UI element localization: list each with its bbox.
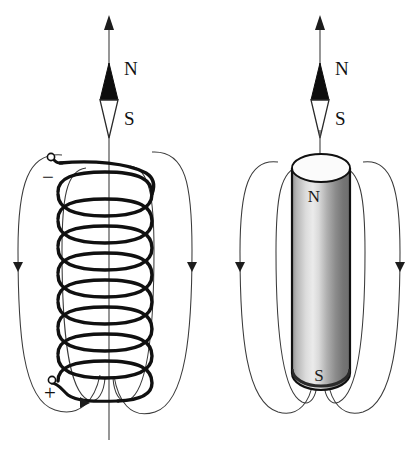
magnet-field-arrow-right	[395, 262, 405, 272]
compass-needle-south-left	[100, 100, 118, 138]
magnet-pole-label-south: S	[314, 366, 323, 385]
compass-arrow-tip-right	[315, 15, 325, 30]
compass-arrow-tip-left	[104, 15, 114, 30]
field-arrow-left-outer	[13, 262, 23, 272]
compass-label-south-right: S	[335, 108, 346, 129]
positive-terminal-sign: +	[44, 381, 56, 405]
figure-canvas: N S	[0, 0, 420, 475]
field-arrow-right-outer	[187, 262, 197, 272]
compass-needle-north-left	[100, 63, 118, 100]
magnet-top-cap	[292, 154, 350, 182]
bar-magnet-panel: N S N	[235, 15, 405, 413]
magnet-field-arrow-left	[235, 262, 245, 272]
compass-label-south-left: S	[124, 108, 135, 129]
negative-terminal-dot[interactable]	[47, 153, 54, 160]
solenoid-panel: N S	[13, 15, 197, 440]
bar-magnet-cylinder	[292, 154, 350, 390]
solenoid-coil	[58, 162, 154, 401]
magnet-body-fill	[292, 168, 350, 390]
negative-lead-wire	[54, 160, 62, 163]
compass-needle-north-right	[311, 63, 329, 100]
compass-label-north-left: N	[124, 58, 138, 79]
compass-label-north-right: N	[335, 58, 349, 79]
magnet-pole-label-north: N	[308, 187, 320, 206]
magnetic-field-diagram: N S	[0, 0, 420, 475]
negative-terminal-sign: −	[42, 165, 54, 189]
